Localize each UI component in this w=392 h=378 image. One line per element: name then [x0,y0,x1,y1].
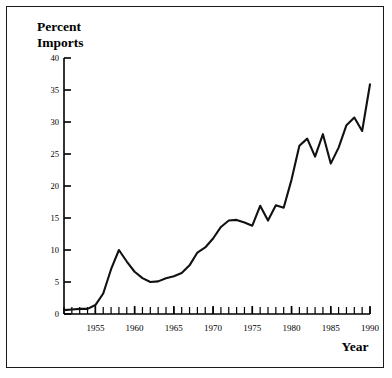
y-tick-label: 10 [51,245,60,255]
x-axis-ticks: 19551960196519701975198019851990 [64,306,380,333]
y-axis-title-line2: Imports [37,35,84,50]
x-tick-label: 1970 [204,323,223,333]
x-tick-label: 1980 [283,323,302,333]
y-tick-label: 5 [55,277,59,287]
x-tick-label: 1965 [165,323,184,333]
percent-imports-line-chart: Percent Imports Year 0510152025303540 19… [7,7,385,369]
y-axis-ticks: 0510152025303540 [51,53,72,319]
x-tick-label: 1985 [322,323,341,333]
y-tick-label: 35 [51,85,60,95]
x-tick-label: 1960 [126,323,145,333]
figure-frame: Percent Imports Year 0510152025303540 19… [6,6,384,368]
y-tick-label: 25 [51,149,60,159]
x-tick-label: 1975 [243,323,262,333]
x-tick-label: 1955 [86,323,105,333]
y-tick-label: 0 [55,309,59,319]
y-tick-label: 30 [51,117,60,127]
y-axis-title-line1: Percent [37,19,81,34]
x-axis-title: Year [342,339,369,354]
x-tick-label: 1990 [361,323,380,333]
y-tick-label: 40 [51,53,60,63]
data-series-line [64,84,370,310]
y-tick-label: 20 [51,181,60,191]
y-tick-label: 15 [51,213,60,223]
